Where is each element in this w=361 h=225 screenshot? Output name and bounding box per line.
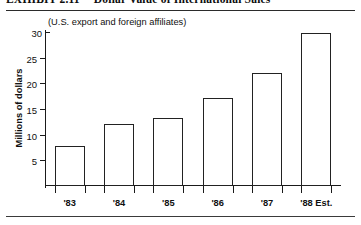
bar [55,146,85,186]
y-axis-tick-label: 20 [26,79,37,90]
x-axis-tick [301,186,302,193]
y-axis-tick: 25 [40,58,45,59]
bar [252,73,282,186]
y-axis-tick-label: 25 [26,53,37,64]
y-axis-line [45,30,46,188]
x-axis-category-label: '88 Est. [300,198,332,208]
x-axis-category-label: '86 [211,198,224,208]
x-axis-tick [233,186,234,193]
x-axis-line [45,185,341,186]
x-axis-tick [183,186,184,193]
x-axis-category-label: '85 [162,198,175,208]
exhibit-title: Dollar Value of International Sales [94,0,271,5]
y-axis-title: Millions of dollars [14,48,24,168]
x-axis-tick [85,186,86,193]
exhibit-heading: EXHIBIT 2.11Dollar Value of Internationa… [6,0,356,5]
exhibit-figure: EXHIBIT 2.11Dollar Value of Internationa… [0,0,361,225]
y-axis-tick-label: 5 [32,156,37,167]
bar [104,124,134,186]
x-axis-tick [282,186,283,193]
x-axis-tick [153,186,154,193]
x-axis-tick [134,186,135,193]
x-axis-category-label: '83 [63,198,76,208]
y-axis-tick: 30 [45,32,50,33]
bar [301,33,331,186]
bottom-divider [6,216,355,217]
y-axis-tick: 10 [40,135,45,136]
y-axis-tick: 15 [40,109,45,110]
x-axis-tick [55,186,56,193]
x-axis-tick [331,186,332,193]
x-axis-category-label: '87 [261,198,274,208]
bar [203,98,233,186]
exhibit-number: EXHIBIT 2.11 [6,0,80,5]
x-axis-tick [104,186,105,193]
y-axis-tick-label: 30 [31,28,42,39]
y-axis-tick-label: 15 [26,105,37,116]
bar [153,118,183,186]
y-axis-tick: 5 [40,160,45,161]
y-axis-tick: 20 [40,83,45,84]
top-divider [6,10,355,11]
x-axis-tick [252,186,253,193]
chart-subtitle: (U.S. export and foreign affiliates) [48,17,186,27]
plot-area: 51015202530'83'84'85'86'87'88 Est. [45,32,341,186]
x-axis-tick [203,186,204,193]
y-axis-tick-label: 10 [26,130,37,141]
x-axis-category-label: '84 [113,198,126,208]
